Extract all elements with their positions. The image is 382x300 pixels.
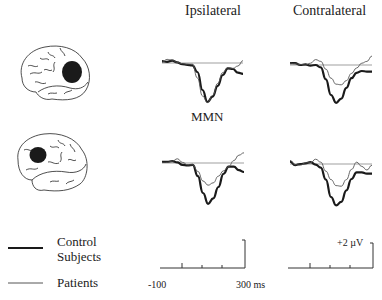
brain-lesion-posterior-icon: [21, 46, 89, 100]
brain-lesion-frontal-icon: [18, 134, 87, 191]
baselines: [162, 63, 372, 164]
lesion-frontal: [30, 147, 47, 163]
erp-waveforms: [162, 56, 372, 205]
control-waveform-row2-ipsilateral: [162, 161, 244, 204]
legend-control-label-line2: Subjects: [57, 250, 101, 264]
lesion-posterior: [62, 61, 82, 83]
legend-control-label-line1: Control: [57, 235, 97, 249]
amplitude-label: +2 µV: [337, 237, 363, 248]
time-end-label: 300 ms: [236, 279, 265, 290]
time-scale-bar-left: [160, 240, 245, 268]
patients-waveform-row2-ipsilateral: [162, 153, 244, 185]
legend-patients-label: Patients: [57, 276, 98, 290]
control-waveform-row1-contralateral: [290, 63, 372, 103]
patients-waveform-row1-ipsilateral: [162, 59, 243, 102]
time-start-label: -100: [148, 279, 166, 290]
control-waveform-row2-contralateral: [290, 162, 372, 206]
